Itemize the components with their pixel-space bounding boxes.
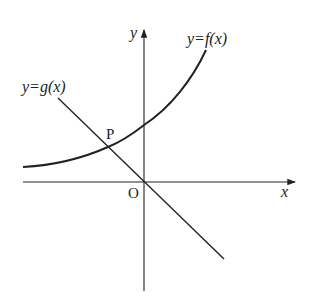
line-g-label: y=g(x) bbox=[20, 78, 66, 96]
line-g bbox=[58, 98, 224, 259]
function-graph: y x O y=f(x) y=g(x) P bbox=[0, 0, 310, 307]
x-axis-label: x bbox=[280, 183, 288, 200]
point-p-label: P bbox=[106, 126, 114, 142]
curve-f bbox=[23, 50, 206, 167]
curve-f-label: y=f(x) bbox=[185, 30, 227, 48]
origin-label: O bbox=[128, 185, 139, 201]
y-axis-label: y bbox=[128, 24, 138, 42]
